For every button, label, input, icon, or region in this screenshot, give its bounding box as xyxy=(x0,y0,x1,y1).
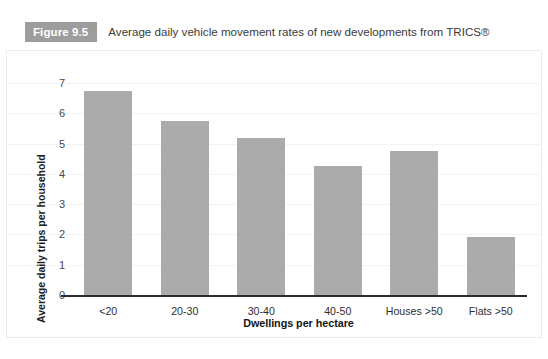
figure-caption: Figure 9.5 Average daily vehicle movemen… xyxy=(25,21,490,42)
bar xyxy=(84,91,132,295)
y-axis-tick-label: 4 xyxy=(43,168,65,179)
plot-area: <2020-3030-4040-50Houses >50Flats >50 Dw… xyxy=(70,51,527,339)
x-axis-tick-label: <20 xyxy=(99,305,117,317)
figure-caption-text: Average daily vehicle movement rates of … xyxy=(108,25,489,38)
y-axis-tick-label: 5 xyxy=(43,138,65,149)
bar xyxy=(390,151,438,295)
x-axis-tick-label: 40-50 xyxy=(324,305,351,317)
y-axis-tick-label: 1 xyxy=(43,259,65,270)
x-axis-tick-label: Flats >50 xyxy=(469,305,513,317)
figure-container: Figure 9.5 Average daily vehicle movemen… xyxy=(0,0,548,359)
x-axis-tick-label: Houses >50 xyxy=(386,305,443,317)
bar xyxy=(161,121,209,295)
chart-frame: Average daily trips per household 012345… xyxy=(6,50,542,338)
bar xyxy=(314,166,362,295)
x-axis-line xyxy=(61,295,527,297)
x-axis-tick-label: 30-40 xyxy=(248,305,275,317)
y-axis-tick-label: 6 xyxy=(43,108,65,119)
y-axis-tick-label: 7 xyxy=(43,78,65,89)
x-axis-title: Dwellings per hectare xyxy=(70,317,527,329)
y-axis-tick-label: 2 xyxy=(43,229,65,240)
figure-number-badge: Figure 9.5 xyxy=(25,22,97,42)
bar xyxy=(467,237,515,295)
bar xyxy=(237,138,285,295)
x-axis-tick-label: 20-30 xyxy=(171,305,198,317)
y-axis-tick-label: 3 xyxy=(43,199,65,210)
